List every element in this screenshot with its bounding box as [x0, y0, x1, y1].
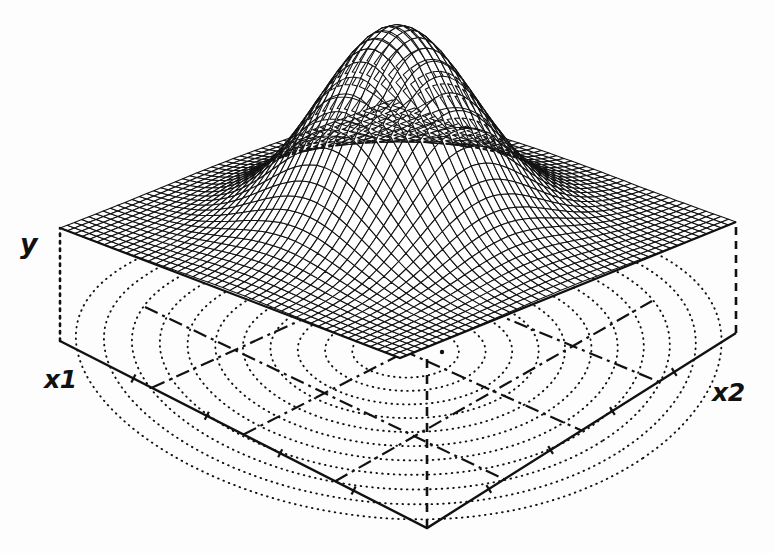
- surface-plot-svg: [0, 0, 774, 553]
- axis-label-y: y: [20, 228, 37, 259]
- figure-canvas: y x1 x2: [0, 0, 774, 553]
- wireframe-surface-group: [60, 25, 736, 358]
- axis-label-x2: x2: [712, 378, 745, 407]
- contour-center-dot: [440, 350, 444, 354]
- base-front-edges: [60, 333, 736, 528]
- axis-label-x1: x1: [44, 365, 77, 394]
